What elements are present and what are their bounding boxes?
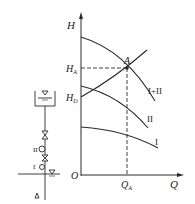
sump-water-symbol-icon bbox=[49, 170, 55, 174]
y-axis-label: H bbox=[66, 19, 76, 31]
hd-label: HD bbox=[65, 92, 78, 104]
x-axis-arrow-icon bbox=[177, 173, 184, 177]
pump-i-label: I bbox=[33, 163, 36, 171]
curve-ii bbox=[81, 86, 148, 128]
origin-label: O bbox=[71, 170, 78, 181]
point-a-label: A bbox=[123, 55, 131, 66]
pump-series-diagram: H Q O A HA HD QA I+II II I II I bbox=[0, 0, 195, 204]
operating-point-a bbox=[125, 66, 129, 70]
curve-ii-label: II bbox=[147, 114, 153, 124]
axes bbox=[79, 12, 184, 177]
tank-water-symbol-icon bbox=[42, 91, 48, 95]
foot-valve-icon bbox=[35, 193, 39, 198]
qa-label: QA bbox=[121, 179, 132, 191]
curve-i-plus-ii-label: I+II bbox=[148, 86, 162, 96]
pump-ii-icon bbox=[39, 146, 45, 152]
pump-i-icon bbox=[40, 165, 45, 170]
curve-i bbox=[81, 127, 158, 148]
ha-label: HA bbox=[65, 63, 77, 75]
curve-i-plus-ii bbox=[81, 37, 155, 101]
pump-ii-label: II bbox=[33, 146, 38, 154]
pipeline-curve bbox=[81, 50, 147, 97]
pump-schematic bbox=[18, 91, 60, 200]
y-axis-arrow-icon bbox=[79, 12, 83, 19]
x-axis-label: Q bbox=[170, 178, 178, 190]
curve-i-label: I bbox=[155, 137, 158, 147]
upper-tank bbox=[35, 91, 55, 106]
